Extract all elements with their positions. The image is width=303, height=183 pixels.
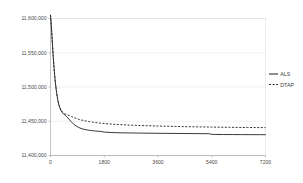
y-axis-tick-labels: 11,400,00011,450,00011,500,00011,550,000… xyxy=(21,15,50,158)
x-tick-label-2: 3600 xyxy=(152,159,163,165)
x-tick-label-4: 7200 xyxy=(260,159,271,165)
y-tick-label-0: 11,400,000 xyxy=(21,152,46,158)
legend-label-als: ALS xyxy=(280,71,291,77)
x-tick-label-0: 0 xyxy=(49,159,52,165)
data-series-group xyxy=(51,15,266,135)
y-tick-label-3: 11,550,000 xyxy=(21,50,46,56)
series-line-dtap xyxy=(51,15,266,128)
chart-legend: ALSDTAP xyxy=(269,71,295,88)
series-line-als xyxy=(51,15,266,135)
chart-canvas: 11,400,00011,450,00011,500,00011,550,000… xyxy=(0,0,303,183)
line-chart: 11,400,00011,450,00011,500,00011,550,000… xyxy=(0,0,303,183)
x-tick-label-1: 1800 xyxy=(99,159,110,165)
x-axis-tick-labels: 01800360054007200 xyxy=(49,156,271,166)
y-tick-label-2: 11,500,000 xyxy=(21,84,46,90)
x-tick-label-3: 5400 xyxy=(206,159,217,165)
y-tick-label-1: 11,450,000 xyxy=(21,118,46,124)
legend-label-dtap: DTAP xyxy=(280,82,294,88)
y-tick-label-4: 11,600,000 xyxy=(21,15,46,21)
